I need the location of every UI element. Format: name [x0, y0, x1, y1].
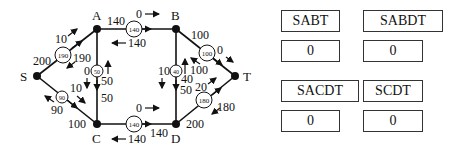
flow-arrow-SA: [72, 41, 82, 48]
flow-AC: 50: [94, 69, 100, 75]
flow-BD: 40: [173, 69, 179, 75]
residual-fwd-AB: 0: [136, 7, 142, 21]
residual-bwd-SC-arrow: [45, 96, 54, 102]
residual-fwd-CD: 0: [136, 101, 142, 115]
path-value-SABDT[interactable]: 0: [363, 40, 423, 62]
residual-bwd-SA: 190: [73, 51, 91, 65]
node-label-S: S: [20, 69, 27, 84]
residual-bwd-CD: 140: [128, 132, 146, 146]
residual-fwd-SC-arrow: [77, 96, 85, 103]
capacity-AB: 140: [107, 14, 125, 28]
node-label-D: D: [171, 131, 180, 146]
node-label-A: A: [92, 8, 102, 23]
flow-SA: 190: [58, 52, 69, 60]
residual-fwd-BT: 0: [217, 43, 223, 57]
path-label-SCDT: SCDT: [363, 80, 423, 102]
node-C: [93, 120, 101, 128]
flow-CD: 140: [129, 121, 140, 129]
node-A: [93, 25, 101, 33]
flow-DT: 180: [199, 97, 210, 105]
flow-arrow-SC: [67, 100, 77, 108]
residual-fwd-BT-arrow: [226, 57, 233, 62]
flow-arrow-DT: [212, 88, 221, 95]
residual-fwd-DT: 20: [195, 80, 207, 94]
residual-bwd-AC: 50: [101, 74, 113, 88]
node-B: [172, 25, 180, 33]
residual-fwd-BD: 10: [158, 64, 170, 78]
residual-fwd-SA: 10: [55, 32, 67, 46]
node-label-C: C: [92, 131, 101, 146]
flow-SC: 90: [59, 95, 65, 101]
capacity-CD: 140: [150, 126, 168, 140]
residual-bwd-AB: 140: [128, 36, 146, 50]
flow-AB: 140: [129, 26, 140, 34]
path-value-SACDT[interactable]: 0: [281, 110, 340, 132]
capacity-SA: 200: [33, 54, 51, 68]
residual-fwd-SC: 10: [70, 81, 82, 95]
capacity-DT: 200: [186, 117, 204, 131]
residual-fwd-AC: 0: [84, 64, 90, 78]
flow-BT: 100: [202, 50, 213, 58]
residual-fwd-DT-arrow: [208, 78, 216, 84]
residual-fwd-SA-arrow: [68, 29, 77, 36]
flow-network-diagram: 190 90 140 50 40 100 140 180 S A B C D T…: [0, 0, 260, 148]
path-label-SABT: SABT: [281, 10, 340, 32]
path-value-SABT[interactable]: 0: [281, 40, 340, 62]
node-D: [172, 120, 180, 128]
capacity-SC: 100: [68, 117, 86, 131]
residual-bwd-SC: 90: [51, 103, 63, 117]
capacity-BT: 100: [191, 28, 209, 42]
node-S: [33, 72, 41, 80]
path-label-SACDT: SACDT: [281, 80, 359, 102]
path-label-SABDT: SABDT: [363, 10, 443, 32]
flow-arrow-BT: [213, 58, 222, 65]
path-value-SCDT[interactable]: 0: [363, 110, 423, 132]
node-T: [231, 72, 239, 80]
residual-bwd-DT: 180: [217, 100, 235, 114]
residual-bwd-BT: 100: [190, 63, 208, 77]
capacity-AC: 50: [101, 91, 113, 105]
node-label-T: T: [243, 69, 251, 84]
node-label-B: B: [171, 8, 180, 23]
